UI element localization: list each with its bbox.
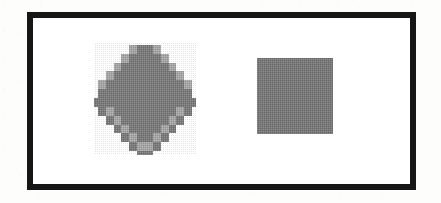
figure-frame [27, 12, 416, 190]
figure-canvas [0, 0, 441, 203]
diamond-step-blocks [94, 45, 196, 155]
square-dither-texture [257, 58, 333, 134]
aliased-diamond-shape [94, 43, 196, 155]
aliased-diamond-svg [94, 43, 196, 155]
solid-square-shape [257, 58, 333, 134]
figure-frame-interior [33, 18, 410, 184]
